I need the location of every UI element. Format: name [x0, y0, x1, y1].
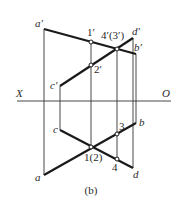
label-4: 4 — [112, 161, 118, 173]
label-4-3-prime: 4′(3′) — [101, 29, 124, 42]
label-2-prime: 2′ — [94, 63, 102, 75]
label-1-2: 1(2) — [84, 151, 103, 164]
axis-label-o: O — [162, 87, 170, 99]
label-a: a — [35, 171, 41, 183]
label-b: b — [139, 116, 145, 128]
figure-caption: (b) — [85, 184, 98, 197]
label-d-prime: d′ — [132, 25, 141, 37]
line-c-prime-d-prime — [60, 38, 133, 86]
point-3 — [115, 132, 119, 136]
point-2-prime — [89, 63, 93, 67]
projection-diagram: X O a′ b′ c′ d′ 1′ 2′ 4′(3′) a b c d 1(2… — [0, 0, 179, 204]
label-b-prime: b′ — [134, 41, 143, 53]
point-1-prime — [89, 40, 93, 44]
label-3: 3 — [119, 120, 125, 132]
label-c: c — [53, 123, 58, 135]
label-d: d — [133, 168, 139, 180]
label-1-prime: 1′ — [87, 26, 95, 38]
point-1-2 — [89, 145, 93, 149]
label-c-prime: c′ — [50, 79, 58, 91]
point-4-3-prime — [115, 47, 119, 51]
axis-label-x: X — [15, 87, 24, 99]
label-a-prime: a′ — [35, 17, 44, 29]
